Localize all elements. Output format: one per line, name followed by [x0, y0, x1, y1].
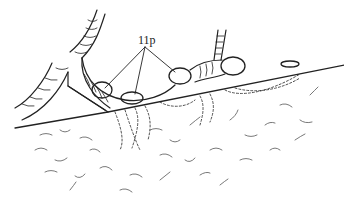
penetration-hyphae — [115, 74, 300, 150]
diagram-drawing — [0, 0, 344, 199]
tissue-texture — [35, 87, 318, 192]
right-hypha — [190, 30, 226, 82]
figure-label-11p: 11p — [138, 33, 156, 48]
figure: 11p — [0, 0, 344, 199]
label-leaders — [105, 47, 175, 94]
